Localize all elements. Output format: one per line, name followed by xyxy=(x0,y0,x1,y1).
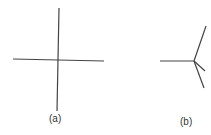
panel-a-cross xyxy=(13,8,104,111)
figure-canvas xyxy=(0,0,211,135)
panel-b-label: (b) xyxy=(180,117,192,127)
panel-b-junction xyxy=(160,26,206,88)
panel-b-upper-branch xyxy=(194,26,206,61)
panel-a-label: (a) xyxy=(49,114,61,124)
